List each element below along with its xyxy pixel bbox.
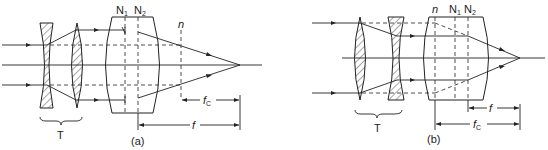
ray-arrow xyxy=(499,65,505,69)
label-telescope-a: T xyxy=(57,129,64,141)
ray-arrow xyxy=(94,28,99,32)
dim-arrow xyxy=(514,122,519,126)
ray-arrow xyxy=(26,83,31,87)
dim-arrow xyxy=(139,123,144,127)
dim-arrow xyxy=(234,123,239,127)
ray-arrow xyxy=(410,78,415,82)
ray-arrow xyxy=(499,47,505,51)
focus-ray-upper-b xyxy=(468,36,520,58)
ray-arrow xyxy=(94,98,99,102)
label-f-a: f xyxy=(192,119,196,131)
label-plane-n-a: n xyxy=(178,18,184,30)
label-f-b: f xyxy=(489,102,493,114)
ray-arrow xyxy=(410,34,415,38)
convex-lens-a xyxy=(72,23,83,108)
convex-lens-b xyxy=(355,17,366,100)
caption-a: (a) xyxy=(131,135,144,147)
ray-arrow xyxy=(331,91,336,95)
dim-arrow xyxy=(469,106,474,110)
telescope-brace-a xyxy=(40,117,82,125)
ray-arrow xyxy=(206,52,212,56)
concave-lens-b xyxy=(388,17,404,100)
label-n2-b: N2 xyxy=(464,3,476,16)
label-n1-a: N1 xyxy=(116,4,128,17)
virtual-ray-upper-b xyxy=(435,23,468,36)
label-telescope-b: T xyxy=(374,122,381,134)
panel-a: N1 N2 n fC f T (a) xyxy=(2,4,262,147)
converging-ray-upper-a xyxy=(138,32,240,65)
ray-arrow xyxy=(26,43,31,47)
label-n2-a: N2 xyxy=(134,4,146,17)
telescope-brace-b xyxy=(355,110,402,118)
dim-arrow xyxy=(182,98,187,102)
virtual-ray-lower-b xyxy=(435,80,468,93)
dim-arrow xyxy=(234,98,239,102)
label-plane-n-b: n xyxy=(432,3,438,15)
label-fc-a: fC xyxy=(203,94,211,107)
focus-ray-lower-b xyxy=(468,58,520,80)
optical-diagram: N1 N2 n fC f T (a) xyxy=(0,0,548,150)
concave-lens-a xyxy=(40,23,53,108)
thick-lens-b xyxy=(424,17,489,100)
ray-arrow xyxy=(331,21,336,25)
converging-ray-lower-a xyxy=(138,65,240,98)
label-n1-b: N1 xyxy=(449,3,461,16)
caption-b: (b) xyxy=(427,133,440,145)
label-fc-b: fC xyxy=(473,118,481,131)
panel-b: n N1 N2 f fC T (b) xyxy=(312,3,545,145)
dim-arrow xyxy=(436,122,441,126)
dim-arrow xyxy=(514,106,519,110)
